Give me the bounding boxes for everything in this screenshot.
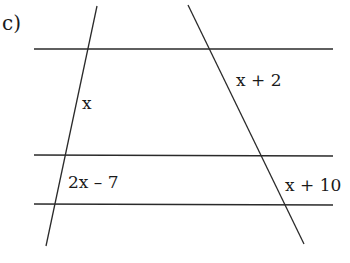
label-left-lower: 2x – 7 bbox=[68, 172, 119, 192]
parallel-line-3 bbox=[34, 204, 333, 205]
label-left-upper: x bbox=[82, 93, 92, 113]
parallel-line-2 bbox=[34, 155, 333, 156]
geometry-diagram: c) x x + 2 2x – 7 x + 10 bbox=[0, 0, 350, 263]
left-transversal bbox=[46, 6, 97, 246]
label-right-lower: x + 10 bbox=[285, 175, 341, 195]
part-label: c) bbox=[2, 11, 21, 35]
right-transversal bbox=[188, 5, 304, 244]
label-right-upper: x + 2 bbox=[236, 70, 281, 90]
